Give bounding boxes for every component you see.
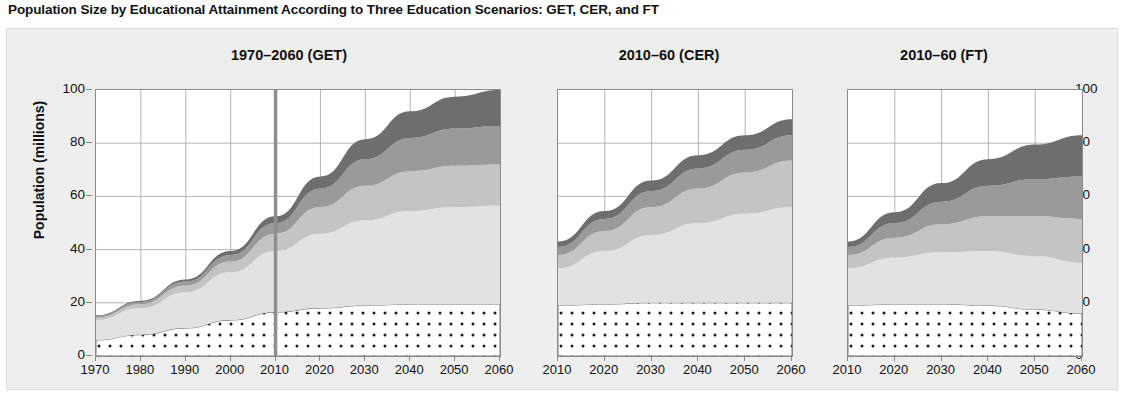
x-axis-ticks-ft: 201020202030204020502060 bbox=[847, 362, 1081, 382]
x-tick-mark-2040 bbox=[987, 355, 988, 361]
x-tick-label-2030: 2030 bbox=[636, 362, 665, 377]
x-tick-mark-1990 bbox=[185, 355, 186, 361]
x-tick-label-2010: 2010 bbox=[833, 362, 862, 377]
figure-title: Population Size by Educational Attainmen… bbox=[8, 2, 659, 17]
x-tick-mark-2010 bbox=[275, 355, 276, 361]
area-layer-no-education bbox=[848, 304, 1082, 356]
area-layer-primary bbox=[848, 251, 1082, 314]
x-tick-label-1970: 1970 bbox=[81, 362, 110, 377]
x-tick-label-2010: 2010 bbox=[543, 362, 572, 377]
x-tick-mark-2000 bbox=[230, 355, 231, 361]
figure-root: Population Size by Educational Attainmen… bbox=[0, 0, 1122, 393]
x-tick-label-2050: 2050 bbox=[1020, 362, 1049, 377]
x-tick-mark-2020 bbox=[319, 355, 320, 361]
x-axis-ticks-cer: 201020202030204020502060 bbox=[557, 362, 791, 382]
x-tick-mark-2030 bbox=[651, 355, 652, 361]
x-tick-mark-2050 bbox=[744, 355, 745, 361]
x-tick-mark-2050 bbox=[1034, 355, 1035, 361]
plot-area-cer bbox=[557, 89, 793, 357]
x-tick-mark-2040 bbox=[697, 355, 698, 361]
chart-card: Population (millions) 020406080100 02040… bbox=[6, 28, 1118, 390]
x-tick-label-2030: 2030 bbox=[926, 362, 955, 377]
x-tick-mark-2020 bbox=[894, 355, 895, 361]
x-tick-mark-2060 bbox=[499, 355, 500, 361]
x-tick-label-2030: 2030 bbox=[350, 362, 379, 377]
x-tick-label-2010: 2010 bbox=[260, 362, 289, 377]
x-tick-mark-2060 bbox=[1081, 355, 1082, 361]
x-tick-label-2000: 2000 bbox=[215, 362, 244, 377]
plot-area-ft bbox=[847, 89, 1083, 357]
x-tick-mark-2050 bbox=[454, 355, 455, 361]
x-tick-mark-2060 bbox=[791, 355, 792, 361]
x-tick-label-2020: 2020 bbox=[879, 362, 908, 377]
panel-title-get: 1970–2060 (GET) bbox=[7, 47, 519, 63]
area-layer-no-education bbox=[558, 303, 792, 356]
x-tick-mark-2030 bbox=[941, 355, 942, 361]
x-tick-label-2040: 2040 bbox=[395, 362, 424, 377]
x-tick-mark-2010 bbox=[557, 355, 558, 361]
x-tick-label-1990: 1990 bbox=[170, 362, 199, 377]
x-tick-mark-1980 bbox=[140, 355, 141, 361]
x-tick-mark-2020 bbox=[604, 355, 605, 361]
panel-title-cer: 2010–60 (CER) bbox=[519, 47, 819, 63]
x-tick-mark-2030 bbox=[364, 355, 365, 361]
x-tick-label-1980: 1980 bbox=[125, 362, 154, 377]
x-tick-label-2060: 2060 bbox=[485, 362, 514, 377]
panel-get: 1970–2060 (GET) 197019801990200020102020… bbox=[7, 29, 519, 389]
x-tick-label-2040: 2040 bbox=[683, 362, 712, 377]
x-tick-label-2020: 2020 bbox=[305, 362, 334, 377]
panel-title-ft: 2010–60 (FT) bbox=[819, 47, 1117, 63]
x-tick-mark-2040 bbox=[409, 355, 410, 361]
x-tick-label-2050: 2050 bbox=[440, 362, 469, 377]
x-tick-mark-2010 bbox=[847, 355, 848, 361]
x-tick-mark-1970 bbox=[95, 355, 96, 361]
x-tick-label-2040: 2040 bbox=[973, 362, 1002, 377]
x-tick-label-2050: 2050 bbox=[730, 362, 759, 377]
x-tick-label-2020: 2020 bbox=[589, 362, 618, 377]
panel-cer: 2010–60 (CER) 201020202030204020502060 bbox=[519, 29, 819, 389]
x-tick-label-2060: 2060 bbox=[777, 362, 806, 377]
x-tick-label-2060: 2060 bbox=[1067, 362, 1096, 377]
x-axis-ticks-get: 1970198019902000201020202030204020502060 bbox=[95, 362, 499, 382]
plot-area-get bbox=[95, 89, 501, 357]
panel-ft: 2010–60 (FT) 201020202030204020502060 bbox=[819, 29, 1117, 389]
